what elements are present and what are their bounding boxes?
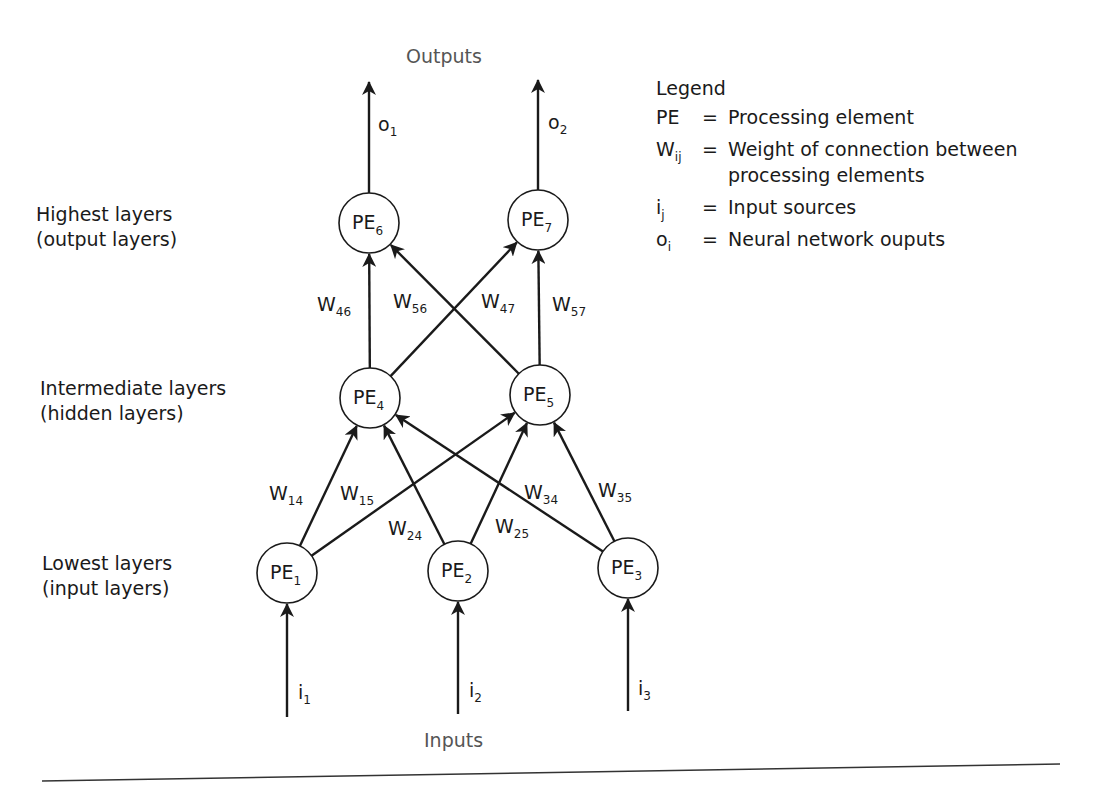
layer-label-hidden-line2: (hidden layers) — [40, 401, 226, 426]
legend-definition-line1: Input sources — [728, 194, 856, 220]
weight-sub: 34 — [543, 493, 558, 507]
weight-base: W — [524, 481, 543, 503]
output-label-o1: o1 — [378, 112, 397, 136]
input-sub: 2 — [474, 691, 482, 705]
weight-base: W — [317, 293, 336, 315]
bottom-rule-divider — [42, 764, 1060, 781]
nodes-layer: PE1PE2PE3PE4PE5PE6PE7 — [257, 190, 658, 603]
layer-label-output-line1: Highest layers — [36, 202, 177, 227]
weight-sub: 56 — [412, 302, 427, 316]
legend-definition-line2: processing elements — [728, 162, 1017, 188]
weight-sub: 46 — [336, 305, 351, 319]
legend-definition-line1: Processing element — [728, 104, 914, 130]
legend-symbol-sub: j — [661, 208, 664, 222]
weight-base: W — [269, 482, 288, 504]
output-base: o — [378, 113, 390, 135]
input-label-i2: i2 — [469, 678, 482, 702]
weight-base: W — [481, 290, 500, 312]
input-sub: 1 — [303, 693, 311, 707]
weight-label-w34: W34 — [524, 480, 558, 504]
legend-symbol: ij — [656, 194, 702, 220]
legend-symbol-base: o — [656, 228, 668, 250]
output-label-o2: o2 — [548, 110, 567, 134]
legend-symbol: PE — [656, 104, 702, 130]
legend-symbol-base: PE — [656, 106, 679, 128]
output-sub: 2 — [560, 123, 568, 137]
weight-sub: 14 — [288, 494, 303, 508]
weight-sub: 35 — [617, 491, 632, 505]
weight-base: W — [388, 517, 407, 539]
input-label-i1: i1 — [298, 680, 311, 704]
legend-equals: = — [702, 104, 728, 130]
output-sub: 1 — [390, 125, 398, 139]
legend-definition: Input sources — [728, 194, 856, 220]
weight-label-w56: W56 — [393, 289, 427, 313]
legend-entry-ij: ij = Input sources — [656, 194, 1017, 220]
node-pe5: PE5 — [510, 365, 570, 425]
legend-definition: Weight of connection betweenprocessing e… — [728, 136, 1017, 188]
weight-base: W — [598, 479, 617, 501]
legend-equals: = — [702, 194, 728, 220]
weight-label-w46: W46 — [317, 292, 351, 316]
legend-definition: Processing element — [728, 104, 914, 130]
layer-label-input-line2: (input layers) — [42, 576, 172, 601]
weight-base: W — [552, 293, 571, 315]
weight-sub: 47 — [500, 302, 515, 316]
weight-base: W — [340, 482, 359, 504]
weight-sub: 25 — [514, 527, 529, 541]
outputs-caption: Outputs — [406, 44, 482, 68]
weight-base: W — [495, 515, 514, 537]
node-pe1: PE1 — [257, 543, 317, 603]
weight-label-w15: W15 — [340, 481, 374, 505]
legend-equals: = — [702, 136, 728, 188]
weight-sub: 15 — [359, 494, 374, 508]
layer-label-hidden: Intermediate layers (hidden layers) — [40, 376, 226, 426]
node-pe7: PE7 — [508, 190, 568, 250]
legend-symbol-base: W — [656, 138, 675, 160]
output-base: o — [548, 111, 560, 133]
legend-definition-line1: Neural network ouputs — [728, 226, 945, 252]
layer-label-output-line2: (output layers) — [36, 227, 177, 252]
node-pe3: PE3 — [598, 538, 658, 598]
legend-entry-wij: Wij = Weight of connection betweenproces… — [656, 136, 1017, 188]
input-label-i3: i3 — [638, 676, 651, 700]
weight-sub: 57 — [571, 305, 586, 319]
layer-label-hidden-line1: Intermediate layers — [40, 376, 226, 401]
node-pe4: PE4 — [340, 368, 400, 428]
weight-label-w35: W35 — [598, 478, 632, 502]
weight-label-w57: W57 — [552, 292, 586, 316]
layer-label-input-line1: Lowest layers — [42, 551, 172, 576]
weight-label-w25: W25 — [495, 514, 529, 538]
weight-sub: 24 — [407, 529, 422, 543]
legend-definition-line1: Weight of connection between — [728, 136, 1017, 162]
node-pe2: PE2 — [428, 541, 488, 601]
edge-arrow-w46 — [369, 254, 370, 368]
layer-label-output: Highest layers (output layers) — [36, 202, 177, 252]
inputs-caption: Inputs — [424, 728, 483, 752]
legend-symbol-sub: ij — [675, 150, 682, 164]
legend-symbol-sub: i — [668, 240, 671, 254]
legend-entry-oi: oi = Neural network ouputs — [656, 226, 1017, 252]
weight-label-w47: W47 — [481, 289, 515, 313]
legend-entry-pe: PE = Processing element — [656, 104, 1017, 130]
legend-title: Legend — [656, 74, 1017, 102]
input-sub: 3 — [643, 689, 651, 703]
connections-layer — [287, 80, 628, 717]
legend-symbol: Wij — [656, 136, 702, 188]
weight-base: W — [393, 290, 412, 312]
weight-label-w24: W24 — [388, 516, 422, 540]
weight-label-w14: W14 — [269, 481, 303, 505]
legend-symbol: oi — [656, 226, 702, 252]
layer-label-input: Lowest layers (input layers) — [42, 551, 172, 601]
legend-definition: Neural network ouputs — [728, 226, 945, 252]
edge-arrow-w57 — [538, 251, 539, 365]
node-pe6: PE6 — [339, 193, 399, 253]
legend: Legend PE = Processing element Wij = Wei… — [656, 74, 1017, 258]
legend-equals: = — [702, 226, 728, 252]
